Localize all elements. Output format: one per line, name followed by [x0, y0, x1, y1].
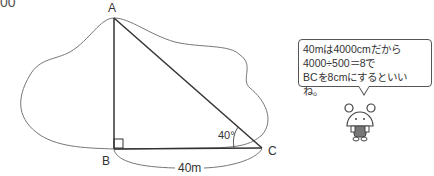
angle-label: 40°: [218, 130, 235, 141]
bear-mascot-icon: [345, 104, 375, 141]
side-length-label: 40m: [178, 162, 201, 174]
vertex-label-c: C: [268, 145, 277, 157]
vertex-label-a: A: [108, 2, 116, 14]
bubble-line: 40mは4000cmだから: [303, 42, 427, 56]
speech-bubble: 40mは4000cmだから 4000÷500＝8で BCを8cmにするといいね。: [298, 39, 432, 87]
bubble-tail-fill: [359, 86, 369, 94]
bubble-line: 4000÷500＝8で: [303, 56, 427, 70]
vertex-label-b: B: [102, 155, 110, 167]
